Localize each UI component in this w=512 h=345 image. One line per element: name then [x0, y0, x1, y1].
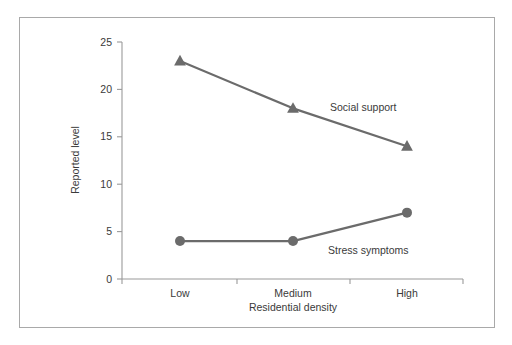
data-point-low	[174, 55, 186, 66]
figure-root: 0510152025 Reported level LowMediumHigh …	[0, 0, 512, 345]
y-axis-title: Reported level	[69, 126, 81, 194]
y-tick-label-25: 25	[100, 36, 112, 48]
x-axis: LowMediumHigh Residential density	[122, 279, 463, 313]
x-axis-title: Residential density	[249, 301, 338, 313]
series-annotation-stress-symptoms: Stress symptoms	[328, 244, 409, 256]
y-tick-label-20: 20	[100, 83, 112, 95]
y-tick-label-15: 15	[100, 130, 112, 142]
y-tick-group	[117, 42, 122, 279]
x-category-label-low: Low	[170, 287, 190, 299]
y-axis: 0510152025 Reported level	[69, 36, 122, 285]
x-category-label-high: High	[396, 287, 418, 299]
y-tick-label-10: 10	[100, 178, 112, 190]
data-point-high	[402, 208, 412, 218]
line-chart: 0510152025 Reported level LowMediumHigh …	[0, 0, 512, 345]
y-tick-label-0: 0	[106, 273, 112, 285]
series-layer	[174, 55, 413, 246]
data-point-low	[175, 236, 185, 246]
y-tick-label-5: 5	[106, 225, 112, 237]
x-tick-group	[122, 279, 463, 284]
series-stress-symptoms	[175, 208, 412, 246]
x-category-label-group: LowMediumHigh	[170, 287, 418, 299]
data-point-medium	[288, 236, 298, 246]
series-annotation-social-support: Social support	[330, 101, 397, 113]
y-tick-label-group: 0510152025	[100, 36, 112, 285]
x-category-label-medium: Medium	[274, 287, 312, 299]
